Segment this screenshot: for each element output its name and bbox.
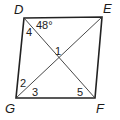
vertex-label-E: E — [103, 1, 112, 16]
angle-label-2: 2 — [20, 77, 26, 89]
geometry-diagram: D E F G 48° 4 1 2 3 5 — [0, 0, 120, 120]
angle-label-4: 4 — [26, 26, 32, 38]
vertex-label-F: F — [96, 101, 105, 116]
angle-label-48deg: 48° — [36, 19, 53, 31]
vertex-label-D: D — [14, 2, 23, 17]
angle-label-5: 5 — [77, 86, 83, 98]
vertex-label-G: G — [5, 101, 15, 116]
angle-label-1: 1 — [55, 45, 61, 57]
angle-label-3: 3 — [32, 86, 38, 98]
